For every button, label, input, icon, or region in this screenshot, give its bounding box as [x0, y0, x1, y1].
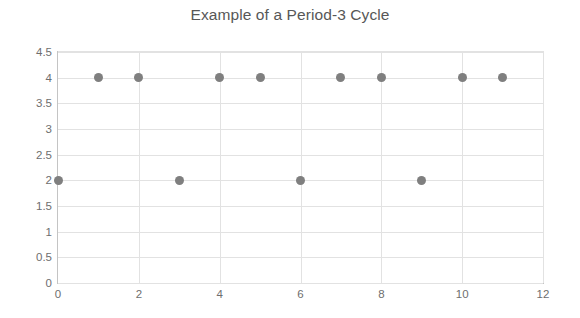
- x-tick-label: 0: [38, 288, 78, 300]
- gridline-vertical: [220, 52, 221, 283]
- y-tick-label: 3.5: [8, 97, 52, 109]
- scatter-point: [296, 176, 305, 185]
- x-tick-label: 8: [361, 288, 401, 300]
- y-axis-tick-labels: 00.511.522.533.544.5: [0, 0, 52, 318]
- gridline-vertical: [301, 52, 302, 283]
- y-tick-label: 2: [8, 174, 52, 186]
- scatter-point: [134, 73, 143, 82]
- x-tick-label: 10: [442, 288, 482, 300]
- x-tick-label: 4: [200, 288, 240, 300]
- plot-border-right: [543, 51, 544, 284]
- y-tick-label: 1: [8, 226, 52, 238]
- x-tick-label: 6: [281, 288, 321, 300]
- x-tick-label: 12: [523, 288, 563, 300]
- scatter-point: [54, 176, 63, 185]
- scatter-point: [215, 73, 224, 82]
- chart-title: Example of a Period-3 Cycle: [0, 6, 580, 24]
- y-tick-label: 1.5: [8, 200, 52, 212]
- y-tick-label: 4: [8, 72, 52, 84]
- scatter-point: [336, 73, 345, 82]
- scatter-point: [94, 73, 103, 82]
- y-tick-label: 4.5: [8, 46, 52, 58]
- scatter-point: [175, 176, 184, 185]
- scatter-point: [498, 73, 507, 82]
- x-tick-label: 2: [119, 288, 159, 300]
- plot-area: [58, 52, 543, 283]
- gridline-horizontal: [58, 283, 543, 284]
- chart-figure: Example of a Period-3 Cycle 00.511.522.5…: [0, 0, 580, 318]
- scatter-point: [256, 73, 265, 82]
- scatter-point: [377, 73, 386, 82]
- y-tick-label: 2.5: [8, 149, 52, 161]
- scatter-point: [458, 73, 467, 82]
- gridline-vertical: [462, 52, 463, 283]
- gridline-vertical: [381, 52, 382, 283]
- y-tick-label: 3: [8, 123, 52, 135]
- y-tick-label: 0.5: [8, 251, 52, 263]
- gridline-vertical: [139, 52, 140, 283]
- scatter-point: [417, 176, 426, 185]
